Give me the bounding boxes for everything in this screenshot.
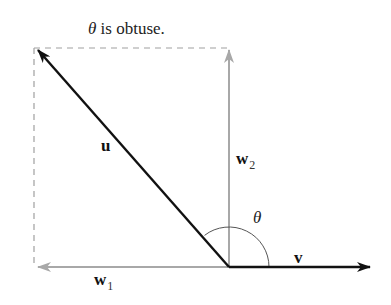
label-theta: θ	[253, 208, 261, 228]
vector-projection-diagram	[0, 0, 391, 305]
theta-angle-arc	[205, 227, 270, 267]
label-w1-main: w	[94, 270, 106, 289]
label-w2-main: w	[236, 149, 248, 168]
label-w1: w1	[94, 270, 113, 290]
title-text: is obtuse.	[96, 19, 164, 38]
label-v: v	[294, 248, 303, 268]
vector-u	[38, 50, 229, 267]
label-w2: w2	[236, 149, 255, 169]
label-u: u	[101, 136, 110, 156]
label-w1-subscript: 1	[107, 279, 113, 293]
label-w2-subscript: 2	[249, 158, 255, 172]
diagram-title: θ is obtuse.	[88, 19, 165, 39]
